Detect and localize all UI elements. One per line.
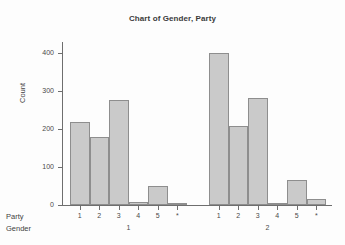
y-tick-label: 300	[24, 87, 54, 94]
x-category-label: 4	[270, 212, 284, 219]
page-title: Chart of Gender, Party	[0, 14, 345, 23]
x-category-label: *	[309, 212, 323, 219]
bar	[148, 186, 168, 205]
bar	[70, 122, 90, 205]
x-tick	[80, 206, 81, 210]
x-category-label: 2	[92, 212, 106, 219]
y-tick-label: 200	[24, 125, 54, 132]
y-axis-line	[62, 42, 63, 205]
bar	[268, 203, 288, 205]
x-category-label: 1	[212, 212, 226, 219]
y-tick-label: 100	[24, 163, 54, 170]
x-tick	[158, 206, 159, 210]
y-tick-label: 0	[24, 201, 54, 208]
x-tick	[219, 206, 220, 210]
y-tick-label: 400	[24, 49, 54, 56]
x-tick	[277, 206, 278, 210]
x-tick	[119, 206, 120, 210]
x-tick	[258, 206, 259, 210]
y-tick	[58, 91, 62, 92]
x-tick	[177, 206, 178, 210]
chart-container: Chart of Gender, Party Count 01002003004…	[0, 0, 345, 245]
x-tick	[316, 206, 317, 210]
bar	[287, 180, 307, 205]
x-category-label: 2	[231, 212, 245, 219]
bar	[307, 199, 327, 205]
bar	[90, 137, 110, 205]
y-tick	[58, 53, 62, 54]
bar	[168, 203, 188, 205]
x-tick	[99, 206, 100, 210]
bar	[129, 202, 149, 205]
row-header-gender: Gender	[6, 224, 31, 233]
group-label: 1	[109, 224, 149, 231]
x-tick	[138, 206, 139, 210]
y-tick	[58, 205, 62, 206]
x-category-label: 5	[151, 212, 165, 219]
y-tick	[58, 129, 62, 130]
x-category-label: 1	[73, 212, 87, 219]
bar	[229, 126, 249, 205]
x-axis-line	[62, 205, 332, 206]
bar	[109, 100, 129, 205]
x-category-label: *	[170, 212, 184, 219]
x-category-label: 4	[131, 212, 145, 219]
x-tick	[297, 206, 298, 210]
y-tick	[58, 167, 62, 168]
x-category-label: 5	[290, 212, 304, 219]
x-tick	[238, 206, 239, 210]
x-category-label: 3	[251, 212, 265, 219]
row-header-party: Party	[6, 212, 24, 221]
plot-area: 0100200300400 12345*112345*2	[62, 42, 332, 205]
bar	[248, 98, 268, 205]
group-label: 2	[248, 224, 288, 231]
bar	[209, 53, 229, 205]
x-category-label: 3	[112, 212, 126, 219]
